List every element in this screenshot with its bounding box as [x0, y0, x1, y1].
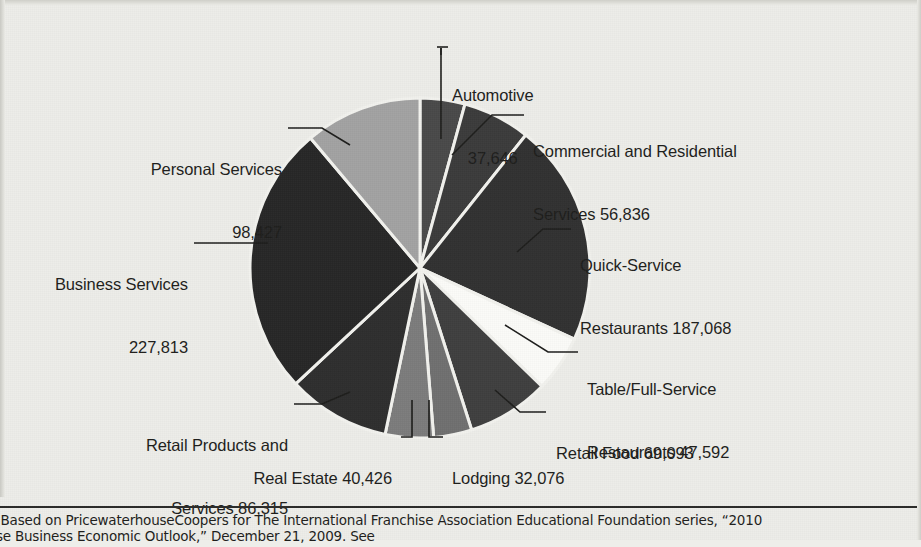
label-commercial-residential-line1: Commercial and Residential: [533, 141, 737, 162]
label-quick-service-line1: Quick-Service: [580, 255, 731, 276]
footnote-line1-text: Based on PricewaterhouseCoopers for The …: [0, 512, 762, 528]
label-table-full-service-line1: Table/Full-Service: [587, 379, 729, 400]
label-retail-food: Retail Food 69,093: [556, 401, 694, 506]
footnote-line-2: hise Business Economic Outlook,” Decembe…: [0, 528, 921, 544]
label-personal-services-line2: 98,427: [96, 222, 282, 243]
label-retail-products-line1: Retail Products and: [60, 435, 288, 456]
label-business-services-line2: 227,813: [8, 337, 188, 358]
label-retail-food-text: Retail Food 69,093: [556, 443, 694, 464]
scan-edge-right: [917, 0, 921, 540]
footnote-divider: [0, 506, 921, 508]
label-personal-services: Personal Services 98,427: [96, 117, 282, 285]
scan-edge-top: [0, 0, 921, 5]
label-quick-service-line2: Restaurants 187,068: [580, 318, 731, 339]
label-automotive-name: Automotive: [452, 85, 534, 106]
label-lodging-text: Lodging 32,076: [452, 468, 564, 489]
footnote-line-1: e: Based on PricewaterhouseCoopers for T…: [0, 512, 921, 528]
scan-edge-left: [0, 0, 5, 497]
label-personal-services-line1: Personal Services: [96, 159, 282, 180]
label-automotive-value: 37,646: [452, 148, 534, 169]
label-automotive: Automotive 37,646: [452, 43, 534, 211]
